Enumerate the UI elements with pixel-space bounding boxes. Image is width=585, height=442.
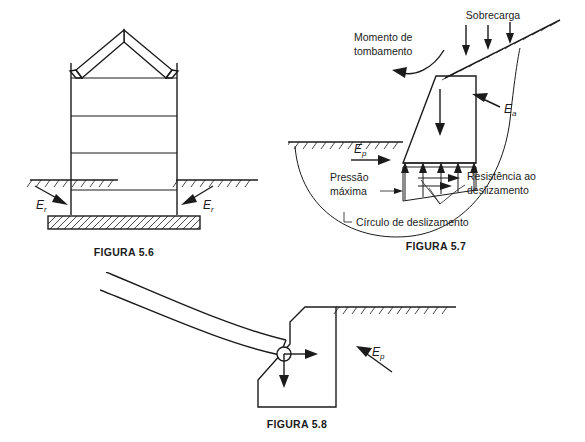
foundation-slab (48, 216, 200, 229)
self-weight-arrow (435, 89, 445, 136)
figure-5-7: Sobrecarga (288, 0, 585, 262)
figure-sheet: E r E r FIGURA 5.6 Sobrecarga (0, 0, 585, 442)
figure-5-6-caption: FIGURA 5.6 (94, 246, 154, 258)
force-label-right-Er-subscript: r (211, 205, 214, 214)
max-pressure-line-2: máxima (330, 185, 367, 197)
max-pressure-line-1: Pressão (330, 171, 369, 183)
surcharge-arrows (462, 22, 514, 56)
overturning-moment-label: Momento de tombamento (354, 31, 444, 78)
arch-member (100, 272, 286, 355)
figure-5-8-caption: FIGURA 5.8 (267, 418, 327, 430)
max-pressure-label: Pressão máxima (330, 171, 403, 197)
abutment-wall (258, 307, 336, 407)
passive-pressure-arrow-Ep (351, 155, 391, 165)
figure-5-6: E r E r FIGURA 5.6 (0, 8, 292, 268)
surcharge-label: Sobrecarga (466, 9, 520, 21)
overturning-moment-line-2: tombamento (354, 45, 413, 57)
overturning-moment-line-1: Momento de (354, 31, 413, 43)
surcharge-label-group: Sobrecarga (466, 9, 520, 21)
slip-circle-label: Círculo de deslizamento (344, 212, 469, 228)
active-pressure-label-subscript: a (512, 109, 517, 118)
roof (70, 30, 178, 78)
force-label-left-Er-subscript: r (44, 205, 47, 214)
ground-line-right-of-wall (334, 307, 456, 314)
backfill-slope-ground-line (442, 20, 560, 80)
ground-line-right (173, 180, 258, 187)
front-ground-line (288, 142, 403, 149)
slip-circle-label-text: Círculo de deslizamento (356, 216, 469, 228)
sliding-resistance-arrows (418, 174, 460, 190)
passive-pressure-label-subscript: p (361, 149, 367, 158)
sliding-resistance-line-2: deslizamento (467, 184, 529, 196)
ground-line-left (27, 180, 118, 187)
building-body (71, 63, 177, 215)
passive-pressure-label-subscript: p (379, 352, 385, 361)
figure-5-8: E p FIGURA 5.8 (100, 272, 460, 442)
sliding-resistance-line-1: Resistência ao (467, 170, 536, 182)
sliding-resistance-label: Resistência ao deslizamento (421, 170, 536, 204)
figure-5-7-caption: FIGURA 5.7 (406, 240, 466, 252)
